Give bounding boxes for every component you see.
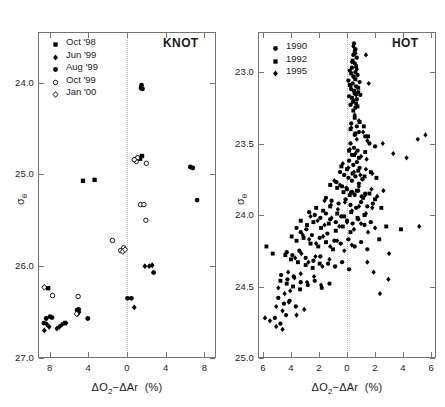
data-point: [351, 109, 355, 113]
data-point: [318, 254, 322, 258]
data-point: [314, 206, 318, 210]
data-point: [381, 188, 385, 193]
data-point: [271, 252, 275, 256]
data-point: [319, 226, 323, 230]
data-point: [331, 247, 335, 251]
data-point: [284, 313, 288, 317]
data-point: [391, 151, 395, 156]
data-point: [356, 86, 360, 90]
data-point: [313, 213, 317, 217]
data-point: [346, 176, 350, 180]
data-point: [355, 189, 359, 193]
data-point: [358, 93, 362, 97]
data-point: [355, 124, 359, 128]
data-point: [305, 223, 309, 227]
data-point: [404, 155, 408, 160]
data-point: [356, 104, 360, 108]
data-point: [364, 157, 368, 162]
data-point: [324, 240, 328, 244]
data-point: [350, 179, 354, 183]
data-point: [283, 253, 287, 257]
data-point: [333, 264, 337, 268]
data-point: [298, 287, 302, 291]
data-point: [350, 221, 354, 225]
data-point: [356, 216, 360, 220]
data-point: [336, 201, 340, 205]
data-point: [371, 270, 375, 275]
data-point: [294, 226, 298, 230]
data-point: [348, 203, 352, 207]
data-point: [321, 209, 325, 213]
data-point: [346, 78, 350, 82]
data-point: [367, 81, 371, 86]
data-point: [355, 97, 359, 101]
data-point: [285, 282, 289, 286]
legend-label: 1990: [286, 40, 307, 51]
data-point: [416, 137, 420, 142]
data-point: [342, 173, 346, 177]
data-point: [313, 279, 317, 283]
data-point: [290, 253, 294, 257]
station-label: HOT: [392, 36, 419, 50]
data-point: [294, 313, 298, 318]
data-point: [366, 230, 370, 235]
data-point: [279, 273, 283, 277]
data-point: [291, 285, 295, 289]
data-point: [280, 308, 284, 313]
data-point: [373, 225, 377, 230]
data-point: [335, 238, 339, 243]
legend-marker-filled-diamond-icon: [270, 65, 282, 76]
data-point: [347, 159, 351, 163]
data-point: [282, 302, 286, 306]
data-point: [356, 169, 360, 173]
data-point: [278, 279, 282, 283]
data-point: [318, 262, 322, 266]
data-point: [352, 146, 356, 150]
data-point: [362, 124, 366, 128]
data-point: [334, 220, 338, 224]
data-point: [364, 52, 368, 57]
data-point: [379, 206, 383, 210]
data-point: [299, 271, 303, 276]
data-point: [311, 259, 315, 263]
data-point: [353, 132, 357, 136]
data-point: [307, 210, 311, 214]
data-point: [285, 277, 289, 281]
data-point: [357, 130, 361, 134]
data-point: [355, 160, 359, 164]
data-point: [299, 219, 303, 223]
data-point: [327, 222, 331, 226]
data-point: [303, 256, 307, 260]
data-point: [322, 222, 326, 227]
legend-label: 1995: [286, 65, 307, 76]
legend-marker-filled-square-icon: [270, 53, 282, 64]
data-point: [339, 241, 343, 245]
figure-root: 24.025.026.027.084048 Oct '98 Jun '99 Au…: [0, 0, 445, 407]
data-point: [334, 229, 338, 233]
data-point: [304, 263, 308, 267]
data-point: [325, 231, 329, 235]
data-point: [363, 174, 367, 178]
data-point: [309, 242, 313, 246]
x-axis-title: ΔO2−ΔAr (%): [267, 381, 427, 396]
data-point: [361, 129, 365, 134]
data-point: [310, 233, 314, 237]
data-point: [327, 257, 331, 262]
data-point: [299, 280, 303, 284]
data-point: [308, 214, 312, 219]
data-point: [358, 172, 362, 177]
data-point: [327, 281, 331, 285]
data-point: [417, 224, 421, 229]
data-point: [276, 296, 280, 300]
data-point: [355, 137, 359, 142]
data-point: [370, 205, 374, 210]
data-point: [386, 277, 390, 282]
data-point: [329, 199, 333, 203]
data-point: [312, 274, 316, 279]
data-point: [338, 170, 342, 174]
data-point: [311, 266, 315, 270]
data-point: [282, 291, 286, 296]
data-point: [286, 270, 290, 275]
data-point: [369, 187, 373, 192]
legend-marker-filled-circle-icon: [270, 40, 282, 51]
